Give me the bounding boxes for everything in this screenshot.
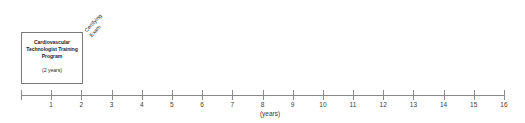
axis-tick-label-15: 15 bbox=[462, 101, 486, 109]
axis-tick-15 bbox=[474, 90, 475, 100]
program-box: Cardiovascular Technologist Training Pro… bbox=[21, 32, 83, 84]
axis-tick-label-2: 2 bbox=[69, 101, 93, 109]
axis-tick-label-5: 5 bbox=[160, 101, 184, 109]
axis-tick-1 bbox=[51, 90, 52, 100]
program-box-title: Cardiovascular Technologist Training Pro… bbox=[24, 39, 80, 60]
axis-tick-label-16: 16 bbox=[492, 101, 516, 109]
axis-tick-label-12: 12 bbox=[371, 101, 395, 109]
axis-tick-14 bbox=[444, 90, 445, 100]
program-box-duration: (2 years) bbox=[24, 67, 80, 74]
axis-tick-label-7: 7 bbox=[220, 101, 244, 109]
axis-tick-label-8: 8 bbox=[251, 101, 275, 109]
axis-tick-label-9: 9 bbox=[281, 101, 305, 109]
axis-tick-0 bbox=[21, 90, 22, 100]
axis-tick-4 bbox=[142, 90, 143, 100]
axis-tick-label-10: 10 bbox=[311, 101, 335, 109]
axis-tick-6 bbox=[202, 90, 203, 100]
axis-tick-3 bbox=[112, 90, 113, 100]
axis-tick-label-13: 13 bbox=[401, 101, 425, 109]
timeline-figure: Cardiovascular Technologist Training Pro… bbox=[0, 0, 525, 123]
milestone-label-certifying-exam: Certifying Exam bbox=[83, 13, 108, 38]
axis-tick-label-4: 4 bbox=[130, 101, 154, 109]
axis-tick-12 bbox=[383, 90, 384, 100]
axis-tick-label-3: 3 bbox=[100, 101, 124, 109]
axis-tick-13 bbox=[413, 90, 414, 100]
axis-tick-5 bbox=[172, 90, 173, 100]
axis-tick-label-11: 11 bbox=[341, 101, 365, 109]
axis-tick-label-1: 1 bbox=[39, 101, 63, 109]
axis-tick-16 bbox=[504, 90, 505, 100]
axis-tick-11 bbox=[353, 90, 354, 100]
axis-unit-label: (years) bbox=[240, 110, 300, 118]
axis-tick-label-14: 14 bbox=[432, 101, 456, 109]
axis-tick-9 bbox=[293, 90, 294, 100]
axis-tick-label-6: 6 bbox=[190, 101, 214, 109]
axis-tick-2 bbox=[81, 90, 82, 100]
axis-tick-7 bbox=[232, 90, 233, 100]
axis-tick-8 bbox=[263, 90, 264, 100]
axis-tick-10 bbox=[323, 90, 324, 100]
